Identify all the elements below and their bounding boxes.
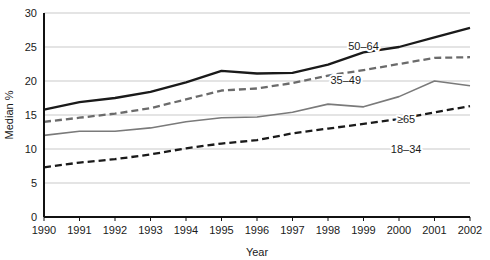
- x-tick-label-1995: 1995: [209, 224, 233, 236]
- x-tick-label-2001: 2001: [422, 224, 446, 236]
- chart-background: [0, 0, 490, 260]
- series-label-35–49: 35–49: [330, 74, 361, 86]
- x-tick-label-1991: 1991: [67, 224, 91, 236]
- y-tick-label-10: 10: [25, 143, 37, 155]
- x-tick-label-1992: 1992: [103, 224, 127, 236]
- series-label-18–34: 18–34: [391, 143, 422, 155]
- x-axis-title: Year: [246, 246, 269, 258]
- x-tick-label-1999: 1999: [351, 224, 375, 236]
- x-tick-label-1994: 1994: [174, 224, 198, 236]
- y-tick-label-5: 5: [31, 177, 37, 189]
- y-tick-label-30: 30: [25, 7, 37, 19]
- chart-container: 051015202530 199019911992199319941995199…: [0, 0, 490, 260]
- series-label-≥65: ≥65: [397, 113, 415, 125]
- x-tick-label-1997: 1997: [280, 224, 304, 236]
- y-tick-label-0: 0: [31, 211, 37, 223]
- x-tick-label-1990: 1990: [32, 224, 56, 236]
- y-tick-label-15: 15: [25, 109, 37, 121]
- x-tick-label-1998: 1998: [316, 224, 340, 236]
- x-tick-label-2000: 2000: [387, 224, 411, 236]
- x-tick-label-1996: 1996: [245, 224, 269, 236]
- line-chart: 051015202530 199019911992199319941995199…: [0, 0, 490, 260]
- x-tick-label-2002: 2002: [458, 224, 482, 236]
- y-tick-label-25: 25: [25, 41, 37, 53]
- y-axis-title: Median %: [3, 90, 15, 139]
- x-tick-label-1993: 1993: [138, 224, 162, 236]
- series-label-50–64: 50–64: [348, 40, 379, 52]
- y-tick-label-20: 20: [25, 75, 37, 87]
